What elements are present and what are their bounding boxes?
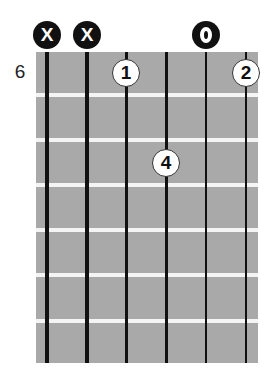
muted-label: X — [41, 24, 54, 46]
string-1 — [245, 52, 247, 363]
muted-string-5-icon: X — [73, 21, 101, 49]
muted-label: X — [81, 24, 94, 46]
open-string-2-icon — [192, 21, 220, 49]
fret-line-6 — [36, 319, 258, 323]
finger-number: 2 — [241, 62, 252, 84]
finger-4-marker: 4 — [152, 149, 180, 177]
chord-diagram: 6 X X 1 2 4 — [0, 0, 275, 391]
open-ring-icon — [200, 27, 212, 43]
string-3 — [165, 52, 168, 363]
start-fret-label: 6 — [12, 60, 28, 84]
fret-line-5 — [36, 273, 258, 277]
string-2 — [205, 52, 207, 363]
finger-1-marker: 1 — [112, 59, 140, 87]
muted-string-6-icon: X — [33, 21, 61, 49]
string-4 — [125, 52, 128, 363]
fretboard — [36, 52, 258, 363]
fret-line-2 — [36, 138, 258, 142]
fret-line-1 — [36, 93, 258, 97]
fret-line-3 — [36, 183, 258, 187]
finger-number: 4 — [161, 152, 172, 174]
fret-line-4 — [36, 228, 258, 232]
string-5 — [85, 52, 89, 363]
string-6 — [45, 52, 49, 363]
finger-number: 1 — [121, 62, 132, 84]
finger-2-marker: 2 — [232, 59, 260, 87]
